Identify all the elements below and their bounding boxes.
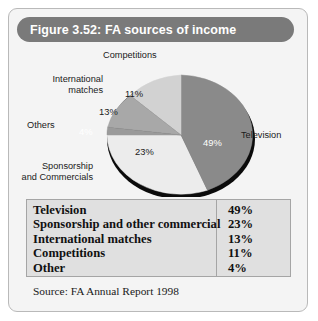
table-value-column: 49% 23% 13% 11% 4% [217, 200, 290, 276]
table-row: Sponsorship and other commercial [33, 217, 216, 231]
table-value: 4% [228, 261, 290, 275]
pie-label-international-line2: matches [29, 85, 103, 96]
pie-chart: 49% 23% 11% 13% 4% Competitions Internat… [17, 45, 301, 197]
pie-label-sponsorship-line2: and Commercials [21, 172, 93, 183]
pie-value-television: 49% [203, 137, 222, 148]
pie-label-television: Television [241, 130, 281, 141]
table-row: Competitions [33, 246, 216, 260]
table-value: 13% [228, 232, 290, 246]
table-row: Television [33, 203, 216, 217]
pie-label-international: International matches [29, 74, 103, 95]
pie-value-sponsorship: 23% [135, 146, 154, 157]
page-title: Figure 3.52: FA sources of income [17, 23, 236, 37]
pie-value-international: 13% [99, 106, 118, 117]
pie-label-sponsorship-line1: Sponsorship [21, 161, 93, 172]
data-table: Television Sponsorship and other commerc… [26, 199, 291, 277]
pie-label-others: Others [27, 120, 55, 131]
pie-label-international-line1: International [29, 74, 103, 85]
table-value: 23% [228, 217, 290, 231]
figure-title-bar: Figure 3.52: FA sources of income [17, 17, 294, 42]
pie-value-others: 4% [79, 126, 93, 137]
figure-frame: Figure 3.52: FA sources of income 49% 23… [8, 8, 308, 312]
table-value: 11% [228, 246, 290, 260]
pie-value-competitions: 11% [125, 88, 143, 99]
table-row: Other [33, 261, 216, 275]
pie-label-sponsorship: Sponsorship and Commercials [21, 161, 93, 182]
pie-label-competitions: Competitions [103, 50, 157, 61]
source-note: Source: FA Annual Report 1998 [33, 285, 179, 297]
table-label-column: Television Sponsorship and other commerc… [27, 200, 217, 276]
table-value: 49% [228, 203, 290, 217]
table-row: International matches [33, 232, 216, 246]
